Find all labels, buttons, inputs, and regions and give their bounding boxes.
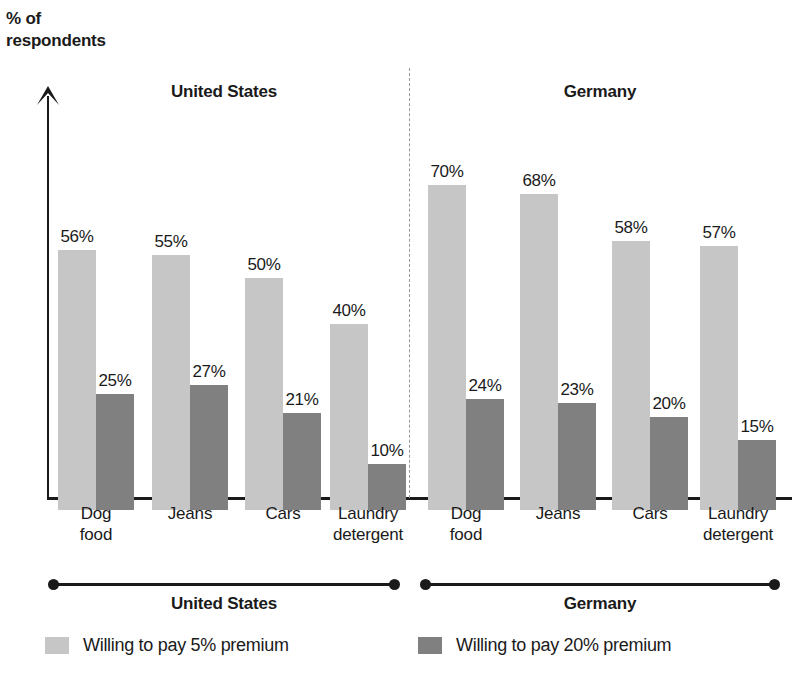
bracket-united-states <box>48 579 400 590</box>
bracket-dot-right <box>389 579 400 590</box>
bar-group: 58%20% <box>612 70 688 510</box>
bar-group: 56%25% <box>58 70 134 510</box>
bar-20-percent-wrapper: 27% <box>190 70 228 510</box>
bar-pair: 70%24% <box>428 70 504 510</box>
legend-label-5-percent: Willing to pay 5% premium <box>83 635 289 656</box>
bar-20-percent-value-label: 21% <box>285 391 318 408</box>
category-label-line2: food <box>406 525 526 546</box>
legend-swatch-dark <box>418 637 442 654</box>
bar-pair: 68%23% <box>520 70 596 510</box>
bar-20-percent[interactable] <box>466 399 504 510</box>
bar-5-percent[interactable] <box>520 194 558 510</box>
bar-20-percent-wrapper: 15% <box>738 70 776 510</box>
bar-20-percent[interactable] <box>738 440 776 510</box>
bar-5-percent-value-label: 50% <box>247 256 280 273</box>
category-label-line2: detergent <box>678 525 798 546</box>
bar-5-percent[interactable] <box>152 255 190 510</box>
bracket-line <box>424 583 776 586</box>
bar-5-percent[interactable] <box>428 185 466 510</box>
bar-20-percent[interactable] <box>558 403 596 510</box>
bar-group: 70%24% <box>428 70 504 510</box>
bar-20-percent-value-label: 10% <box>370 442 403 459</box>
bar-5-percent-value-label: 55% <box>154 233 187 250</box>
bar-pair: 50%21% <box>245 70 321 510</box>
bar-5-percent-value-label: 40% <box>332 302 365 319</box>
bracket-title-germany: Germany <box>420 594 780 614</box>
bar-20-percent-value-label: 25% <box>98 372 131 389</box>
bar-20-percent[interactable] <box>96 394 134 510</box>
bracket-germany <box>420 579 780 590</box>
bar-5-percent-wrapper: 40% <box>330 70 368 510</box>
bar-5-percent-value-label: 56% <box>60 228 93 245</box>
bar-5-percent-wrapper: 55% <box>152 70 190 510</box>
bar-20-percent-value-label: 27% <box>192 363 225 380</box>
bar-5-percent-wrapper: 56% <box>58 70 96 510</box>
bar-5-percent-value-label: 58% <box>614 219 647 236</box>
bar-20-percent-wrapper: 10% <box>368 70 406 510</box>
bar-group: 40%10% <box>330 70 406 510</box>
bar-20-percent-wrapper: 23% <box>558 70 596 510</box>
category-label-line2: food <box>36 525 156 546</box>
bar-pair: 56%25% <box>58 70 134 510</box>
legend-item-5-percent: Willing to pay 5% premium <box>45 635 289 656</box>
bar-pair: 40%10% <box>330 70 406 510</box>
bar-5-percent[interactable] <box>58 250 96 510</box>
bar-5-percent[interactable] <box>700 246 738 510</box>
panel-divider <box>409 68 410 498</box>
bar-5-percent-value-label: 70% <box>430 163 463 180</box>
bar-20-percent-wrapper: 21% <box>283 70 321 510</box>
bar-group: 50%21% <box>245 70 321 510</box>
bar-pair: 58%20% <box>612 70 688 510</box>
legend-item-20-percent: Willing to pay 20% premium <box>418 635 671 656</box>
legend-label-20-percent: Willing to pay 20% premium <box>456 635 671 656</box>
bar-20-percent[interactable] <box>190 385 228 510</box>
bar-5-percent[interactable] <box>330 324 368 510</box>
bar-5-percent-wrapper: 70% <box>428 70 466 510</box>
bar-5-percent-wrapper: 68% <box>520 70 558 510</box>
bar-5-percent-wrapper: 50% <box>245 70 283 510</box>
bar-20-percent-value-label: 20% <box>652 395 685 412</box>
bar-20-percent-value-label: 24% <box>468 377 501 394</box>
y-axis-arrow-icon <box>36 86 60 106</box>
category-label: Laundrydetergent <box>678 504 798 545</box>
category-label-line1: Laundry <box>678 504 798 525</box>
bar-5-percent-wrapper: 58% <box>612 70 650 510</box>
bar-20-percent-wrapper: 20% <box>650 70 688 510</box>
bracket-dot-left <box>420 579 431 590</box>
bar-pair: 55%27% <box>152 70 228 510</box>
bar-group: 55%27% <box>152 70 228 510</box>
bar-20-percent[interactable] <box>283 413 321 510</box>
bar-5-percent-wrapper: 57% <box>700 70 738 510</box>
bar-20-percent-value-label: 23% <box>560 381 593 398</box>
chart-plot-area: 56%25%55%27%50%21%40%10%70%24%68%23%58%2… <box>0 0 799 510</box>
bar-20-percent[interactable] <box>650 417 688 510</box>
y-axis <box>47 96 49 498</box>
bar-group: 57%15% <box>700 70 776 510</box>
bracket-title-united-states: United States <box>48 594 400 614</box>
bar-5-percent-value-label: 68% <box>522 172 555 189</box>
bracket-dot-left <box>48 579 59 590</box>
bar-5-percent[interactable] <box>612 241 650 510</box>
legend-swatch-light <box>45 637 69 654</box>
bar-group: 68%23% <box>520 70 596 510</box>
bar-pair: 57%15% <box>700 70 776 510</box>
bracket-line <box>52 583 396 586</box>
bar-20-percent-value-label: 15% <box>740 418 773 435</box>
bar-20-percent-wrapper: 25% <box>96 70 134 510</box>
bar-20-percent-wrapper: 24% <box>466 70 504 510</box>
bracket-dot-right <box>769 579 780 590</box>
bar-5-percent-value-label: 57% <box>702 224 735 241</box>
bar-5-percent[interactable] <box>245 278 283 510</box>
